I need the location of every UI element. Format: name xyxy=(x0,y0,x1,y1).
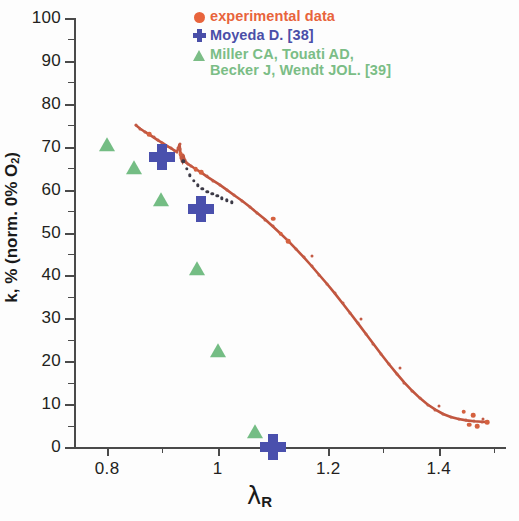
data-point-dot-experimental xyxy=(485,420,490,425)
data-point-triangle xyxy=(247,424,263,438)
x-tick-label: 1 xyxy=(213,459,223,479)
data-point-dot-experimental xyxy=(326,282,329,285)
data-point-triangle xyxy=(153,193,169,207)
data-point-triangle xyxy=(189,261,205,275)
data-point-dot-experimental xyxy=(457,418,460,421)
data-point-dot-experimental xyxy=(411,389,414,392)
y-tick-label: 30 xyxy=(41,308,61,328)
data-point-dot-experimental xyxy=(143,130,146,133)
data-point-dot-experimental xyxy=(461,410,466,415)
y-tick-label: 60 xyxy=(41,180,61,200)
data-point-cross xyxy=(188,196,214,222)
data-point-dot-experimental xyxy=(182,154,185,157)
y-tick-label: 40 xyxy=(41,265,61,285)
y-tick-major xyxy=(65,318,74,320)
y-tick-major xyxy=(65,275,74,277)
data-point-dot-experimental xyxy=(152,136,155,139)
data-point-dot-experimental xyxy=(278,231,283,236)
data-point-triangle xyxy=(126,160,142,174)
data-point-triangle xyxy=(210,343,226,357)
data-point-dot-experimental xyxy=(471,413,476,418)
data-point-dot-experimental xyxy=(134,124,137,127)
data-point-dot-experimental xyxy=(205,175,208,178)
data-point-dot-experimental xyxy=(481,417,484,420)
data-point-dot-experimental xyxy=(248,205,251,208)
data-point-dot-experimental xyxy=(442,412,445,415)
chart-figure: experimental data Moyeda D. [38] Miller … xyxy=(0,0,519,521)
x-tick-label: 1.4 xyxy=(426,459,451,479)
data-point-dot-experimental xyxy=(467,422,472,427)
data-point-dot-experimental xyxy=(357,322,360,325)
data-point-dot-experimental xyxy=(139,127,142,130)
y-tick-label: 50 xyxy=(41,223,61,243)
y-tick-major xyxy=(65,361,74,363)
data-point-dot-experimental xyxy=(212,179,215,182)
experimental-fit-curve xyxy=(74,18,505,449)
data-point-dot-experimental xyxy=(480,420,483,423)
y-tick-label: 80 xyxy=(41,94,61,114)
data-point-dot-experimental xyxy=(318,273,321,276)
data-point-dot-experimental xyxy=(341,302,344,305)
data-point-dot-experimental xyxy=(199,170,204,175)
data-point-dot-experimental xyxy=(233,194,236,197)
data-point-dot-experimental xyxy=(475,424,480,429)
data-point-dot-experimental xyxy=(349,312,352,315)
x-axis-title: λR xyxy=(0,482,519,510)
data-point-dot-experimental xyxy=(333,292,336,295)
data-point-dot-experimental xyxy=(256,212,259,215)
data-point-cross xyxy=(149,144,175,170)
data-point-dot-experimental xyxy=(271,216,276,221)
y-tick-label: 10 xyxy=(41,394,61,414)
y-tick-major xyxy=(65,447,74,449)
data-point-dot-experimental xyxy=(178,143,181,146)
data-point-dot-experimental xyxy=(360,318,363,321)
x-tick-label: 1.2 xyxy=(316,459,341,479)
data-point-dot-experimental xyxy=(473,420,476,423)
data-point-dot-experimental xyxy=(179,148,182,151)
data-point-dot-experimental xyxy=(426,403,429,406)
data-point-dot-experimental xyxy=(449,415,452,418)
data-point-dot-experimental xyxy=(364,332,367,335)
data-point-dot-experimental xyxy=(418,397,421,400)
y-tick-major xyxy=(65,104,74,106)
y-tick-label: 90 xyxy=(41,51,61,71)
y-tick-major xyxy=(65,18,74,20)
data-point-dot-experimental xyxy=(286,239,291,244)
data-point-dot-experimental xyxy=(193,167,198,172)
data-point-dot-experimental xyxy=(387,363,390,366)
y-tick-label: 100 xyxy=(32,8,61,28)
data-point-dot-experimental xyxy=(372,343,375,346)
data-point-cross xyxy=(260,434,286,460)
data-point-dot-experimental xyxy=(403,381,406,384)
y-tick-major xyxy=(65,61,74,63)
data-point-dot-experimental xyxy=(295,248,298,251)
y-axis-title: k, % (norm. 0% O2) xyxy=(2,152,22,303)
y-tick-major xyxy=(65,233,74,235)
data-point-dot-experimental xyxy=(240,199,243,202)
data-point-dot-experimental xyxy=(218,183,221,186)
data-point-dot-experimental xyxy=(465,419,468,422)
data-point-dot-experimental xyxy=(437,404,440,407)
data-point-dot-experimental xyxy=(264,218,267,221)
data-point-dot-experimental xyxy=(271,225,274,228)
data-point-dot-experimental xyxy=(310,264,313,267)
y-tick-label: 0 xyxy=(51,437,61,457)
data-point-dot-experimental xyxy=(395,372,398,375)
data-point-dot-experimental xyxy=(225,188,228,191)
y-tick-major xyxy=(65,404,74,406)
data-point-triangle xyxy=(99,137,115,151)
data-point-dot-experimental xyxy=(190,165,193,168)
data-point-dot-experimental xyxy=(156,139,159,142)
y-tick-label: 20 xyxy=(41,351,61,371)
data-point-dot-experimental xyxy=(310,254,313,257)
y-tick-major xyxy=(65,190,74,192)
data-point-dot-experimental xyxy=(380,353,383,356)
y-tick-label: 70 xyxy=(41,137,61,157)
y-tick-major xyxy=(65,147,74,149)
data-point-dot-experimental xyxy=(399,367,402,370)
plot-area: 0102030405060708090100 0.811.21.4 xyxy=(74,18,505,447)
data-point-dot-experimental xyxy=(434,408,437,411)
data-point-dot-experimental xyxy=(147,132,152,137)
x-tick-label: 0.8 xyxy=(95,459,120,479)
data-point-dot-experimental xyxy=(302,256,305,259)
